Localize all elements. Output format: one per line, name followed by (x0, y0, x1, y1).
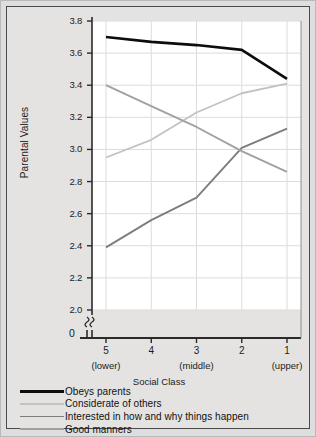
legend-line-swatch (20, 390, 64, 393)
legend-swatch-container (7, 428, 65, 430)
chart-figure: Parental Values 3.83.63.43.23.02.82.62.4… (0, 0, 316, 437)
y-axis-tick-label: 2.8 (54, 176, 82, 187)
y-axis-tick-label: 2.2 (54, 272, 82, 283)
chart-frame: Parental Values 3.83.63.43.23.02.82.62.4… (6, 6, 310, 429)
x-axis-tick-label: 3 (182, 345, 212, 356)
y-axis-tick-label: 2.4 (54, 240, 82, 251)
legend-swatch-container (7, 403, 65, 405)
x-axis-tick-label: 5 (91, 345, 121, 356)
x-axis-tick-label: 4 (136, 345, 166, 356)
legend-item: Obeys parents (7, 385, 311, 398)
legend-item: Considerate of others (7, 398, 311, 411)
x-axis-sub-label: (upper) (259, 360, 315, 371)
y-axis-tick-label: 2.0 (54, 304, 82, 315)
line-chart-svg (7, 7, 311, 357)
legend-swatch-container (7, 390, 65, 393)
legend-item: Good manners (7, 423, 311, 436)
x-axis-tick-label: 2 (227, 345, 257, 356)
y-axis-tick-label: 2.6 (54, 208, 82, 219)
x-axis-sub-label: (lower) (78, 360, 134, 371)
x-axis-sub-label: (middle) (169, 360, 225, 371)
legend-label: Obeys parents (65, 386, 131, 397)
chart-plot-region: Parental Values 3.83.63.43.23.02.82.62.4… (7, 7, 311, 357)
y-axis-tick-label: 3.6 (54, 47, 82, 58)
legend-label: Interested in how and why things happen (65, 411, 249, 422)
x-axis-tick-label: 1 (272, 345, 302, 356)
chart-legend: Obeys parentsConsiderate of othersIntere… (7, 385, 311, 435)
legend-line-swatch (20, 416, 64, 418)
legend-item: Interested in how and why things happen (7, 410, 311, 423)
axis-break-zero-label: 0 (69, 327, 75, 339)
y-axis-tick-label: 3.2 (54, 111, 82, 122)
y-axis-tick-label: 3.8 (54, 15, 82, 26)
legend-line-swatch (20, 403, 64, 405)
legend-swatch-container (7, 416, 65, 418)
legend-label: Good manners (65, 424, 132, 435)
legend-label: Considerate of others (65, 398, 162, 409)
y-axis-tick-label: 3.4 (54, 79, 82, 90)
legend-line-swatch (20, 428, 64, 430)
y-axis-tick-label: 3.0 (54, 143, 82, 154)
